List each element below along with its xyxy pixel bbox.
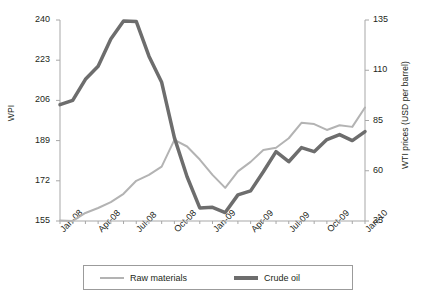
legend-swatch-raw-icon [100,277,124,279]
series-line-crude-oil [60,21,365,213]
series-line-raw-materials [60,107,365,221]
legend-swatch-crude-icon [234,276,258,280]
chart-figure: WPI WTI prices (USD per barrel) 24022320… [0,0,436,305]
legend-label: Crude oil [264,273,300,283]
legend-item-crude[interactable]: Crude oil [234,271,300,285]
legend-item-raw[interactable]: Raw materials [100,271,187,285]
chart-legend: Raw materialsCrude oil [83,265,353,290]
legend-label: Raw materials [130,273,187,283]
series-lines [60,21,365,221]
plot-area [0,0,436,305]
tick-marks [56,20,369,224]
